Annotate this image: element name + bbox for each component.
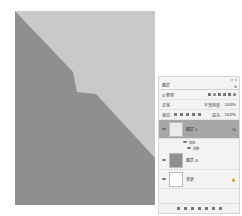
layer-row-1[interactable]: 图层 1 fx	[159, 120, 239, 139]
delete-layer-icon[interactable]	[219, 207, 222, 210]
dropshadow-label: 投影	[193, 146, 199, 151]
lock-paint-icon[interactable]	[180, 113, 183, 116]
lock-pixels-icon[interactable]	[174, 113, 177, 116]
link-layers-icon[interactable]	[177, 207, 180, 210]
lock-icon: 🔒	[231, 177, 236, 182]
fx-icon[interactable]: fx	[232, 127, 236, 132]
layers-panel: 图层 ≡ Q 类型 正常 不透明度: 100% 锁定: 填充: 100% 图层 …	[158, 76, 240, 214]
filter-row: Q 类型	[159, 90, 239, 100]
blend-mode-select[interactable]: 正常	[162, 102, 170, 108]
dropshadow-eye-icon[interactable]	[187, 147, 191, 149]
visibility-eye-icon[interactable]	[162, 159, 166, 161]
fill-value[interactable]: 100%	[225, 112, 236, 117]
lock-label: 锁定:	[162, 112, 171, 118]
lock-move-icon[interactable]	[186, 113, 189, 116]
close-icon[interactable]	[235, 79, 237, 81]
tab-layers[interactable]: 图层	[159, 83, 173, 89]
lock-artboard-icon[interactable]	[192, 113, 195, 116]
layer-thumbnail	[169, 172, 183, 187]
effects-eye-icon[interactable]	[183, 141, 187, 143]
add-style-icon[interactable]	[184, 207, 187, 210]
effects-label: 效果	[189, 140, 195, 145]
visibility-eye-icon[interactable]	[162, 178, 166, 180]
canvas-artwork	[15, 11, 155, 205]
opacity-label: 不透明度:	[204, 102, 221, 108]
visibility-eye-icon[interactable]	[162, 128, 166, 130]
blend-row: 正常 不透明度: 100%	[159, 100, 239, 110]
layer-list: 图层 1 fx 效果 投影 图层 A 背景 🔒	[159, 120, 239, 189]
filter-toggle-icon[interactable]	[233, 93, 236, 96]
filter-type-icon[interactable]	[218, 93, 221, 96]
fill-label: 填充:	[212, 112, 221, 118]
layer-row-background[interactable]: 背景 🔒	[159, 170, 239, 189]
new-group-icon[interactable]	[205, 207, 208, 210]
filter-smart-icon[interactable]	[228, 93, 231, 96]
layer-thumbnail	[169, 122, 183, 137]
adjustment-layer-icon[interactable]	[198, 207, 201, 210]
filter-pixel-icon[interactable]	[208, 93, 211, 96]
collapse-icon[interactable]	[231, 79, 233, 81]
opacity-value[interactable]: 100%	[225, 102, 236, 107]
layer-thumbnail	[169, 153, 183, 168]
layer-name[interactable]: 图层 1	[186, 126, 198, 132]
new-layer-icon[interactable]	[212, 207, 215, 210]
layer-name[interactable]: 背景	[186, 176, 194, 182]
filter-kind-select[interactable]: Q 类型	[162, 92, 174, 98]
filter-adjust-icon[interactable]	[213, 93, 216, 96]
add-mask-icon[interactable]	[191, 207, 194, 210]
filter-shape-icon[interactable]	[223, 93, 226, 96]
panel-menu-icon[interactable]: ≡	[234, 84, 237, 89]
document-canvas[interactable]	[15, 11, 155, 205]
layer-name[interactable]: 图层 A	[186, 157, 198, 163]
layer-row-2[interactable]: 图层 A	[159, 151, 239, 170]
lock-all-icon[interactable]	[198, 113, 201, 116]
lock-row: 锁定: 填充: 100%	[159, 110, 239, 120]
panel-footer	[159, 203, 239, 213]
